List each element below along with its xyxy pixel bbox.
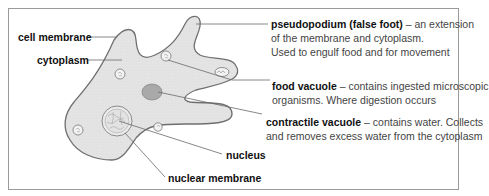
label-cell-membrane: cell membrane bbox=[18, 30, 92, 44]
nucleus-icon bbox=[102, 106, 132, 136]
annotation-food-vacuole: food vacuole – contains ingested microsc… bbox=[272, 79, 489, 107]
term-pseudopodium: pseudopodium (false foot) bbox=[271, 18, 403, 30]
annotation-contractile-vacuole: contractile vacuole – contains water. Co… bbox=[266, 115, 483, 143]
label-nucleus: nucleus bbox=[226, 148, 266, 162]
term-contractile-vacuole: contractile vacuole bbox=[266, 116, 361, 128]
term-food-vacuole: food vacuole bbox=[272, 80, 337, 92]
annotation-pseudopodium: pseudopodium (false foot) – an extension… bbox=[271, 17, 474, 59]
label-nuclear-membrane: nuclear membrane bbox=[168, 171, 261, 185]
label-cytoplasm: cytoplasm bbox=[37, 53, 89, 67]
